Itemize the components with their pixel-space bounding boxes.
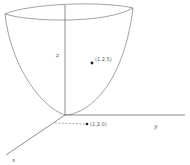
y-axis-label: y <box>153 122 158 130</box>
paraboloid-rim-front <box>5 8 133 20</box>
paraboloid-diagram: z y x (1,2,5) (1,2,0) <box>0 0 190 165</box>
z-axis-label: z <box>55 51 60 58</box>
x-axis-label: x <box>12 156 16 163</box>
projection-dashed-line <box>55 123 86 124</box>
x-axis <box>6 115 65 155</box>
paraboloid-left-side <box>5 14 66 115</box>
point-on-surface <box>91 62 94 65</box>
paraboloid-rim-back <box>5 4 133 14</box>
point-on-plane <box>86 123 89 126</box>
point-on-plane-label: (1,2,0) <box>90 121 107 127</box>
point-on-surface-label: (1,2,5) <box>95 56 112 62</box>
